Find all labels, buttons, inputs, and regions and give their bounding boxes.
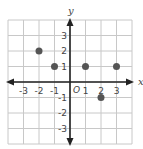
y-axis-up-arrow-icon xyxy=(67,18,74,26)
y-tick-label: 1 xyxy=(61,62,67,72)
axes: xy xyxy=(6,5,143,146)
x-tick-label: -3 xyxy=(19,86,28,96)
x-axis-left-arrow-icon xyxy=(6,79,14,86)
x-axis-label: x xyxy=(138,76,143,87)
y-tick-label: -3 xyxy=(58,124,67,134)
data-point xyxy=(82,63,89,70)
data-point xyxy=(51,63,58,70)
y-tick-label: -2 xyxy=(58,108,67,118)
y-tick-label: 3 xyxy=(61,31,67,41)
coordinate-plane: xy -3-2-1123321-1-2-3O xyxy=(0,0,143,149)
x-tick-label: 3 xyxy=(114,86,120,96)
x-tick-label: 1 xyxy=(83,86,89,96)
y-tick-label: -1 xyxy=(58,93,67,103)
x-tick-label: -2 xyxy=(35,86,44,96)
y-tick-label: 2 xyxy=(61,46,67,56)
x-axis-right-arrow-icon xyxy=(126,79,134,86)
data-point xyxy=(113,63,120,70)
data-point xyxy=(98,94,105,101)
origin-label: O xyxy=(73,85,80,95)
y-axis-label: y xyxy=(67,5,74,16)
data-point xyxy=(36,48,43,55)
y-axis-down-arrow-icon xyxy=(67,138,74,146)
